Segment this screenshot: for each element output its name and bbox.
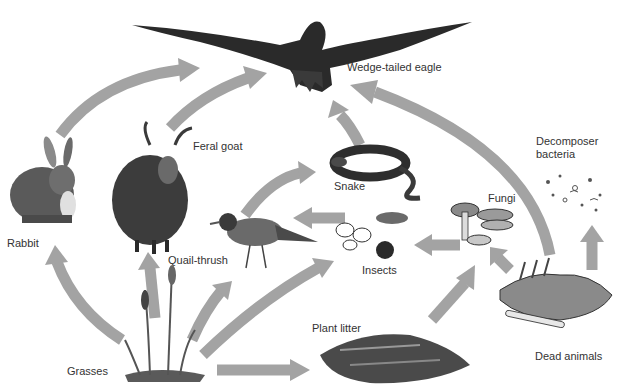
label-decomposer-bacteria: Decomposer bacteria — [536, 135, 598, 161]
label-snake: Snake — [334, 180, 365, 193]
label-quail-thrush: Quail-thrush — [168, 254, 228, 267]
rabbit-illustration — [10, 135, 76, 223]
bacteria-illustration — [546, 175, 602, 212]
goat-illustration — [112, 122, 192, 254]
fungi-illustration — [451, 203, 513, 245]
eagle-illustration — [132, 21, 472, 92]
plantlitter-illustration — [320, 334, 470, 383]
label-feral-goat: Feral goat — [193, 140, 243, 153]
label-dead-animals: Dead animals — [535, 350, 602, 363]
label-decomposer-bacteria-line1: Decomposer — [536, 135, 598, 148]
food-web-diagram: Wedge-tailed eagle Feral goat Rabbit Sna… — [0, 0, 623, 386]
label-plant-litter: Plant litter — [312, 322, 361, 335]
label-wedge-tailed-eagle: Wedge-tailed eagle — [347, 61, 442, 74]
label-insects: Insects — [362, 264, 397, 277]
deadanimals-illustration — [500, 258, 612, 328]
label-decomposer-bacteria-line2: bacteria — [536, 148, 598, 161]
grasses-illustration — [125, 265, 205, 382]
label-rabbit: Rabbit — [7, 237, 39, 250]
insects-illustration — [336, 212, 408, 259]
label-grasses: Grasses — [67, 365, 108, 378]
label-fungi: Fungi — [488, 192, 516, 205]
